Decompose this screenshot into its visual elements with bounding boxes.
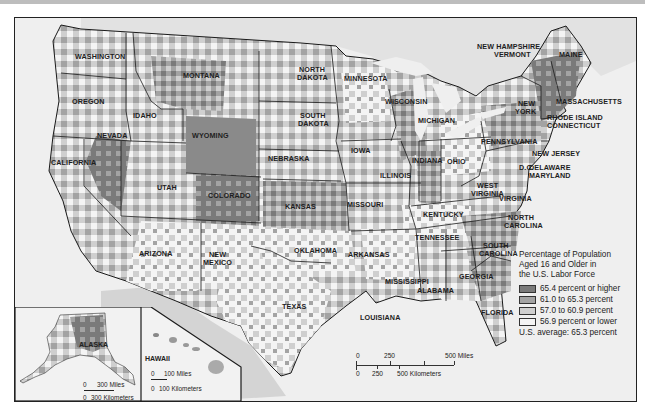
scale-miles-250: 250 [384, 352, 395, 359]
legend-swatch-high [519, 296, 536, 304]
label-wyoming: WYOMING [192, 132, 229, 140]
label-south-dakota-2: DAKOTA [298, 120, 329, 128]
map-frame: ALASKA 0 300 Miles 0 300 Kilometers HAWA… [14, 17, 637, 402]
label-iowa: IOWA [351, 147, 371, 155]
legend-swatch-medium [519, 307, 536, 315]
main-scale-bar [356, 365, 454, 366]
label-maryland: MARYLAND [529, 172, 571, 180]
label-kentucky: KENTUCKY [423, 211, 464, 219]
legend-swatch-highest [519, 285, 536, 293]
top-rule [0, 0, 645, 4]
scale-tick [377, 365, 378, 369]
scale-tick [454, 361, 455, 365]
label-alabama: ALABAMA [417, 287, 454, 295]
alaska-scale-miles-0: 0 [83, 381, 87, 388]
label-indiana: INDIANA [412, 157, 443, 165]
label-oklahoma: OKLAHOMA [294, 247, 337, 255]
legend-label: 56.9 percent or lower [540, 317, 617, 327]
label-colorado: COLORADO [208, 192, 251, 200]
hawaii-scale-miles-0: 0 [151, 370, 155, 377]
alaska-scale-km-300: 300 Kilometers [91, 394, 134, 401]
label-pennsylvania: PENNSYLVANIA [481, 138, 537, 146]
label-california: CALIFORNIA [51, 159, 96, 167]
alaska-scale-km-0: 0 [83, 394, 87, 401]
label-south-carolina-2: CAROLINA [479, 250, 518, 258]
legend-label: 61.0 to 65.3 percent [540, 295, 613, 305]
label-new-jersey: NEW JERSEY [532, 150, 580, 158]
label-illinois: ILLINOIS [380, 172, 411, 180]
label-nevada: NEVADA [97, 132, 127, 140]
label-missouri: MISSOURI [347, 201, 383, 209]
legend-item: 65.4 percent or higher [519, 284, 636, 294]
label-washington: WASHINGTON [75, 53, 125, 61]
label-texas: TEXAS [282, 303, 306, 311]
legend-item: 56.9 percent or lower [519, 317, 636, 327]
alaska-scale-bar [84, 390, 114, 391]
legend: Percentage of Population Aged 16 and Old… [519, 250, 636, 338]
legend-title: Percentage of Population Aged 16 and Old… [519, 250, 636, 280]
label-tennessee: TENNESSEE [415, 234, 459, 242]
label-wisconsin: WISCONSIN [385, 98, 427, 106]
label-oregon: OREGON [72, 98, 105, 106]
label-new-mexico-2: MEXICO [203, 259, 232, 267]
label-dc: D.C. [519, 164, 534, 172]
alaska-scale-miles-300: 300 Miles [97, 381, 124, 388]
hawaii-scale-km-0: 0 [151, 385, 155, 392]
scale-tick [424, 361, 425, 365]
label-vermont: VERMONT [494, 51, 531, 59]
scale-km-0: 0 [356, 370, 360, 377]
hawaii-scale-km-100: 100 Kilometers [159, 385, 202, 392]
label-utah: UTAH [157, 184, 177, 192]
scale-km-250: 250 [372, 370, 383, 377]
scale-miles-500: 500 Miles [445, 352, 473, 359]
label-maine: MAINE [559, 51, 583, 59]
label-louisiana: LOUISIANA [360, 314, 400, 322]
label-florida: FLORIDA [481, 309, 514, 317]
label-hawaii: HAWAII [145, 355, 170, 362]
label-arizona: ARIZONA [139, 250, 172, 258]
label-alaska: ALASKA [79, 341, 108, 348]
legend-item: 57.0 to 60.9 percent [519, 306, 636, 316]
legend-title-line-1: Percentage of Population [519, 250, 636, 260]
legend-title-line-3: the U.S. Labor Force [519, 270, 636, 280]
legend-swatch-low [519, 318, 536, 326]
label-north-dakota-2: DAKOTA [297, 74, 328, 82]
label-north-carolina-2: CAROLINA [504, 222, 543, 230]
scale-km-500: 500 Kilometers [397, 370, 441, 377]
hawaii-scale-miles-100: 100 Miles [164, 370, 191, 377]
label-connecticut: CONNECTICUT [547, 122, 600, 130]
label-idaho: IDAHO [133, 112, 157, 120]
label-new-york-2: YORK [515, 108, 536, 116]
label-ohio: OHIO [447, 158, 466, 166]
legend-us-average: U.S. average: 65.3 percent [519, 328, 636, 338]
alaska-inset [15, 307, 145, 401]
scale-tick [390, 361, 391, 365]
label-georgia: GEORGIA [459, 273, 494, 281]
legend-item: 61.0 to 65.3 percent [519, 295, 636, 305]
label-michigan: MICHIGAN [418, 117, 455, 125]
label-nebraska: NEBRASKA [268, 155, 310, 163]
scale-tick [399, 365, 400, 369]
legend-label: 65.4 percent or higher [540, 284, 620, 294]
hawaii-scale-bar [151, 379, 167, 380]
label-minnesota: MINNESOTA [344, 75, 388, 83]
legend-label: 57.0 to 60.9 percent [540, 306, 613, 316]
legend-title-line-2: Aged 16 and Older in [519, 260, 636, 270]
label-mississippi: MISSISSIPPI [385, 278, 429, 286]
label-arkansas: ARKANSAS [348, 251, 390, 259]
label-kansas: KANSAS [285, 203, 316, 211]
scale-miles-0: 0 [356, 352, 360, 359]
label-west-virginia-2: VIRGINIA [471, 190, 504, 198]
label-montana: MONTANA [183, 72, 220, 80]
label-massachusetts: MASSACHUSETTS [556, 98, 622, 106]
scale-tick [356, 361, 357, 370]
label-virginia: VIRGINIA [499, 195, 532, 203]
